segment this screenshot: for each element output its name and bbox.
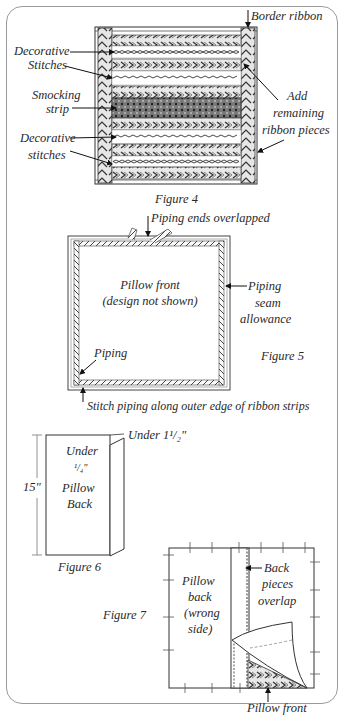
figure-4-caption: Figure 4: [155, 192, 198, 206]
decorative-stitches-bottom-label-1: Decorative: [20, 131, 76, 145]
piping-seam-label-1: Piping: [248, 279, 281, 293]
back-pieces-label-2: pieces: [262, 577, 293, 591]
pillow-front-label-1: Pillow front: [100, 278, 200, 292]
back-pieces-label-1: Back: [264, 561, 289, 575]
figure-6-caption: Figure 6: [58, 560, 101, 574]
pillow-back-wrong-label-4: side): [188, 622, 212, 636]
height-15-label: 15": [23, 480, 41, 494]
stitch-piping-label: Stitch piping along outer edge of ribbon…: [87, 399, 309, 413]
piping-seam-label-3: allowance: [240, 312, 291, 326]
decorative-stitches-top-label-1: Decorative: [14, 44, 70, 58]
under-quarter-label-1: Under: [66, 444, 98, 458]
smocking-strip-label-1: Smocking: [32, 88, 81, 102]
under-quarter-label-2: ¹/₄": [74, 461, 87, 475]
back-pieces-label-3: overlap: [258, 594, 296, 608]
smocking-strip-label-2: strip: [46, 102, 69, 116]
pillow-front-bottom-label: Pillow front: [247, 701, 307, 715]
pillow-back-wrong-label-3: (wrong: [184, 606, 220, 620]
add-remaining-label-2: remaining: [273, 106, 324, 120]
pillow-back-wrong-label-1: Pillow: [182, 574, 215, 588]
pillow-front-label-2: (design not shown): [90, 294, 210, 308]
pillow-back-label-2: Back: [67, 497, 92, 511]
piping-label: Piping: [94, 346, 127, 360]
pillow-back-label-1: Pillow: [62, 481, 95, 495]
under-one-half-label: Under 1¹/₂": [128, 428, 186, 442]
border-ribbon-label: Border ribbon: [251, 9, 322, 23]
figure-7-caption: Figure 7: [103, 608, 146, 622]
decorative-stitches-top-label-2: Stitches: [28, 58, 67, 72]
piping-ends-overlapped-label: Piping ends overlapped: [151, 211, 270, 225]
decorative-stitches-bottom-label-2: stitches: [28, 148, 66, 162]
piping-seam-label-2: seam: [255, 296, 281, 310]
add-remaining-label-1: Add: [287, 89, 307, 103]
pillow-back-wrong-label-2: back: [188, 590, 212, 604]
figure-5-caption: Figure 5: [261, 349, 304, 363]
add-remaining-label-3: ribbon pieces: [262, 123, 330, 137]
